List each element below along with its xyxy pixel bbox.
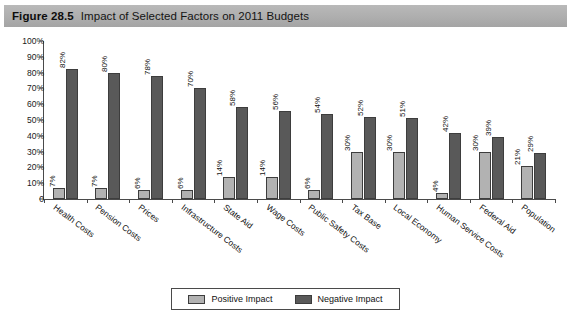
bar-value-label: 70% — [187, 71, 195, 87]
x-axis-tick-mark — [257, 199, 258, 203]
bar-value-label: 54% — [315, 97, 323, 113]
positive-impact-swatch — [188, 295, 205, 304]
bar-group: 6%70% — [181, 41, 206, 199]
figure-container: Figure 28.5 Impact of Selected Factors o… — [0, 0, 571, 325]
bar-value-label: 21% — [515, 149, 523, 165]
legend-item-label: Negative Impact — [318, 294, 383, 304]
x-axis-tick-mark — [44, 199, 45, 203]
x-axis-tick-mark — [512, 199, 513, 203]
y-axis-tick-mark — [39, 151, 43, 152]
bar-group: 7%82% — [53, 41, 78, 199]
bar-negative-impact[interactable]: 78% — [151, 76, 163, 199]
bar-positive-impact[interactable]: 14% — [223, 177, 235, 199]
y-axis-tick-mark — [39, 41, 43, 42]
bar-group: 6%54% — [308, 41, 333, 199]
bar-positive-impact[interactable]: 14% — [266, 177, 278, 199]
x-axis-tick-mark — [470, 199, 471, 203]
bar-positive-impact[interactable]: 7% — [95, 188, 107, 199]
bar-value-label: 7% — [49, 175, 57, 187]
bar-positive-impact[interactable]: 6% — [308, 190, 320, 199]
bar-positive-impact[interactable]: 30% — [393, 152, 405, 199]
bar-value-label: 29% — [528, 136, 536, 152]
bar-negative-impact[interactable]: 42% — [449, 133, 461, 199]
bars-plot-area: 7%82%7%80%6%78%6%70%14%58%14%56%6%54%30%… — [44, 41, 555, 199]
x-axis-category-label: State Aid — [222, 203, 254, 230]
bar-negative-impact[interactable]: 54% — [321, 114, 333, 199]
x-axis-category-label: Prices — [137, 203, 161, 224]
x-axis-tick-mark — [214, 199, 215, 203]
x-axis-category-label: Wage Costs — [265, 203, 307, 237]
bar-negative-impact[interactable]: 82% — [66, 69, 78, 199]
x-axis-category-label: Health Costs — [52, 203, 96, 239]
bar-value-label: 7% — [91, 175, 99, 187]
y-axis-tick-mark — [39, 183, 43, 184]
bar-value-label: 14% — [217, 160, 225, 176]
bar-value-label: 30% — [387, 135, 395, 151]
x-axis-tick-mark — [427, 199, 428, 203]
bar-negative-impact[interactable]: 70% — [194, 88, 206, 199]
bar-negative-impact[interactable]: 39% — [492, 137, 504, 199]
bar-value-label: 6% — [176, 177, 184, 189]
bar-value-label: 6% — [304, 177, 312, 189]
bar-value-label: 14% — [259, 160, 267, 176]
bar-group: 14%58% — [223, 41, 248, 199]
bar-negative-impact[interactable]: 51% — [406, 118, 418, 199]
bar-negative-impact[interactable]: 52% — [364, 117, 376, 199]
x-axis-tick-mark — [172, 199, 173, 203]
bar-value-label: 42% — [443, 116, 451, 132]
negative-impact-swatch — [295, 295, 312, 304]
bar-value-label: 52% — [357, 100, 365, 116]
x-axis-tick-mark — [129, 199, 130, 203]
bar-value-label: 4% — [432, 180, 440, 192]
bar-positive-impact[interactable]: 21% — [521, 166, 533, 199]
bar-positive-impact[interactable]: 30% — [479, 152, 491, 199]
bar-negative-impact[interactable]: 58% — [236, 107, 248, 199]
bar-negative-impact[interactable]: 29% — [534, 153, 546, 199]
bar-negative-impact[interactable]: 80% — [108, 73, 120, 199]
y-axis-tick-mark — [39, 120, 43, 121]
bar-group: 6%78% — [138, 41, 163, 199]
figure-title: Impact of Selected Factors on 2011 Budge… — [81, 10, 309, 22]
bar-value-label: 51% — [400, 101, 408, 117]
x-axis-category-label: Tax Base — [350, 203, 383, 231]
bar-value-label: 30% — [472, 135, 480, 151]
bar-value-label: 39% — [485, 120, 493, 136]
x-axis-category-label: Population — [520, 203, 557, 234]
legend-item[interactable]: Positive Impact — [188, 294, 272, 304]
y-axis-tick-mark — [39, 135, 43, 136]
figure-title-band: Figure 28.5 Impact of Selected Factors o… — [4, 5, 567, 27]
chart-legend: Positive ImpactNegative Impact — [171, 288, 400, 310]
bar-group: 21%29% — [521, 41, 546, 199]
y-axis-tick-mark — [39, 88, 43, 89]
bar-value-label: 58% — [230, 90, 238, 106]
legend-item-label: Positive Impact — [211, 294, 272, 304]
figure-number: Figure 28.5 — [12, 10, 74, 22]
x-axis-category-label: Federal Aid — [477, 203, 516, 236]
bar-group: 14%56% — [266, 41, 291, 199]
bar-value-label: 80% — [102, 56, 110, 72]
bar-positive-impact[interactable]: 30% — [351, 152, 363, 199]
chart-plot-wrapper: 010%20%30%40%50%60%70%80%90%100% 7%82%7%… — [0, 30, 571, 325]
x-axis-tick-mark — [342, 199, 343, 203]
bar-value-label: 6% — [134, 177, 142, 189]
bar-value-label: 56% — [272, 94, 280, 110]
legend-item[interactable]: Negative Impact — [295, 294, 383, 304]
x-axis-tick-mark — [87, 199, 88, 203]
bar-value-label: 30% — [344, 135, 352, 151]
y-axis-tick-mark — [39, 56, 43, 57]
bar-positive-impact[interactable]: 4% — [436, 193, 448, 199]
bar-negative-impact[interactable]: 56% — [279, 111, 291, 199]
y-axis-tick-mark — [39, 104, 43, 105]
bar-group: 30%52% — [351, 41, 376, 199]
y-axis-tick-mark — [39, 199, 43, 200]
bar-positive-impact[interactable]: 7% — [53, 188, 65, 199]
bar-positive-impact[interactable]: 6% — [138, 190, 150, 199]
x-axis-tick-mark — [555, 199, 556, 203]
y-axis-tick-mark — [39, 72, 43, 73]
bar-positive-impact[interactable]: 6% — [181, 190, 193, 199]
bar-value-label: 82% — [59, 52, 67, 68]
x-axis-tick-mark — [385, 199, 386, 203]
y-axis-tick-mark — [39, 167, 43, 168]
bar-group: 30%51% — [393, 41, 418, 199]
bar-group: 7%80% — [95, 41, 120, 199]
